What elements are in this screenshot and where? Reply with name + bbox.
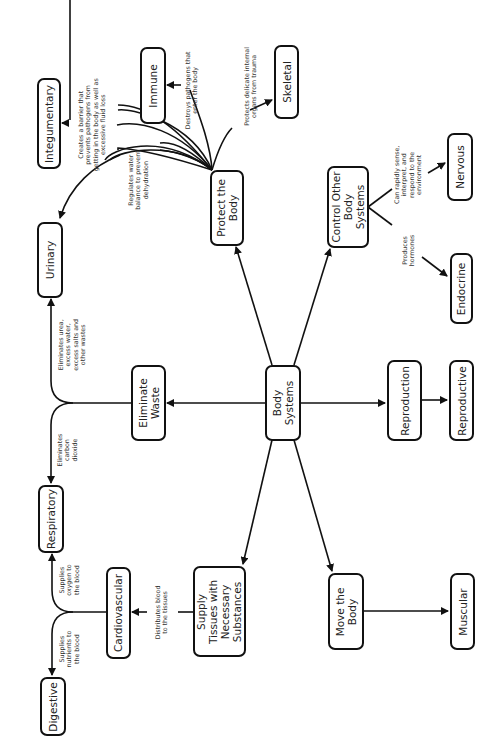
edge-label-integumentary: Creates a barrier that prevents pathogen…: [73, 80, 109, 170]
edge-label-nervous: Can rapidly sense, interpret, and respon…: [392, 140, 424, 210]
node-skeletal[interactable]: Skeletal: [274, 45, 299, 119]
node-respiratory[interactable]: Respiratory: [38, 485, 64, 553]
node-label: Protect the Body: [215, 179, 239, 237]
edge-label-respiratory-o2: Supplies oxygen to the blood: [55, 560, 83, 600]
edge-label-urinary-water: Regulates water balance to prevent dehyd…: [125, 150, 151, 210]
node-label: Muscular: [457, 588, 469, 635]
node-muscular[interactable]: Muscular: [450, 573, 475, 650]
node-label: Nervous: [454, 145, 466, 188]
node-integumentary[interactable]: Integumentary: [37, 78, 61, 169]
node-label: Urinary: [44, 241, 56, 280]
node-digestive[interactable]: Digestive: [40, 677, 66, 736]
node-label: Reproductive: [456, 366, 468, 435]
edge-label-endocrine: Produces hormones: [398, 230, 420, 270]
node-immune[interactable]: Immune: [140, 47, 166, 124]
node-protect-the-body[interactable]: Protect the Body: [210, 170, 244, 246]
edge-label-digestive: Supplies nutrients to the blood: [55, 628, 83, 670]
node-label: Eliminate Waste: [137, 378, 161, 427]
node-move-the-body[interactable]: Move the Body: [328, 573, 364, 650]
node-label: Cardiovascular: [113, 574, 125, 652]
node-label: Move the Body: [334, 587, 358, 636]
node-label: Endocrine: [456, 262, 468, 315]
edge-label-immune: Destroys pathogens that enter the body: [181, 50, 201, 130]
node-cardiovascular[interactable]: Cardiovascular: [106, 567, 131, 659]
node-reproduction[interactable]: Reproduction: [387, 360, 422, 441]
edge-label-cardiovascular: Distributes blood to the tissues: [151, 582, 173, 642]
edge-label-urinary-waste: Eliminates urea, excess water, excess sa…: [55, 315, 89, 375]
node-nervous[interactable]: Nervous: [447, 133, 473, 201]
edge-label-respiratory-co2: Eliminates carbon dioxide: [53, 430, 81, 470]
node-label: Respiratory: [45, 489, 57, 549]
node-control-other-body-systems[interactable]: Control Other Body Systems: [327, 166, 369, 248]
node-label: Immune: [147, 64, 159, 107]
edge-label-skeletal: Protects delicate internal organs from t…: [240, 45, 260, 127]
node-body-systems[interactable]: Body Systems: [265, 365, 301, 441]
node-label: Supply Tissues with Necessary Substances: [196, 579, 244, 643]
node-endocrine[interactable]: Endocrine: [450, 253, 473, 324]
node-supply-tissues[interactable]: Supply Tissues with Necessary Substances: [193, 566, 246, 657]
node-label: Reproduction: [399, 366, 411, 436]
node-label: Digestive: [47, 682, 59, 731]
node-eliminate-waste[interactable]: Eliminate Waste: [131, 365, 166, 441]
node-label: Integumentary: [43, 84, 55, 162]
node-label: Control Other Body Systems: [330, 171, 366, 242]
node-urinary[interactable]: Urinary: [37, 222, 63, 298]
node-label: Skeletal: [281, 61, 293, 103]
node-reproductive[interactable]: Reproductive: [449, 360, 474, 441]
node-label: Body Systems: [271, 381, 295, 426]
